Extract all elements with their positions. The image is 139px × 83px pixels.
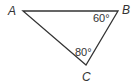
- angle-label-b: 60°: [93, 12, 110, 24]
- vertex-label-b: B: [122, 3, 130, 17]
- vertex-label-c: C: [82, 70, 91, 83]
- angle-label-c: 80°: [75, 46, 92, 58]
- vertex-label-a: A: [7, 4, 16, 18]
- triangle-diagram: A B C 60° 80°: [0, 0, 139, 83]
